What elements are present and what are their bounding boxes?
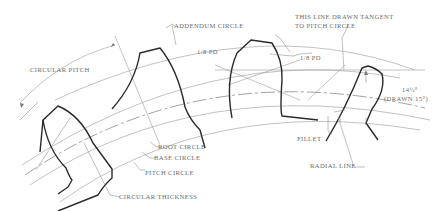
gear-tooth-right xyxy=(326,66,383,141)
label-drawn-angle: (DRAWN 15°) xyxy=(384,95,428,103)
label-pressure-angle: 14½° xyxy=(402,86,418,93)
label-pitch-circle: PITCH CIRCLE xyxy=(145,169,194,176)
label-base-circle: BASE CIRCLE xyxy=(154,154,200,161)
gear-tooth-diagram: ADDENDUM CIRCLE THIS LINE DRAWN TANGENT … xyxy=(0,0,440,211)
label-circular-pitch: CIRCULAR PITCH xyxy=(30,66,90,73)
label-addendum-circle: ADDENDUM CIRCLE xyxy=(174,22,244,29)
label-tangent-line-1: THIS LINE DRAWN TANGENT xyxy=(295,13,394,20)
label-tangent-line-2: TO PITCH CIRCLE xyxy=(295,22,355,29)
label-radial-line: RADIAL LINE xyxy=(310,162,356,169)
base-circle-arc xyxy=(30,106,430,185)
label-one-eighth-pd-right: 1/8 PD xyxy=(300,54,321,61)
pitch-circle-arc xyxy=(25,92,425,175)
outer-thin-arc xyxy=(22,70,400,165)
gear-teeth xyxy=(40,40,383,211)
label-fillet: FILLET xyxy=(297,135,321,142)
label-one-eighth-pd-left: 1/8 PD xyxy=(197,48,218,55)
label-circular-thickness: CIRCULAR THICKNESS xyxy=(119,193,197,200)
root-circle-arc xyxy=(60,121,420,202)
gear-tooth-left-profile xyxy=(43,120,72,194)
arrowheads xyxy=(20,43,368,108)
label-root-circle: ROOT CIRCLE xyxy=(158,143,205,150)
